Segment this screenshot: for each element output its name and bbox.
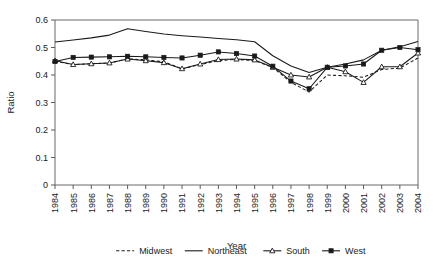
legend-swatch-marker [329, 249, 333, 253]
legend-label: West [345, 246, 366, 256]
y-axis-title: Ratio [5, 91, 16, 113]
legend-label: Northeast [208, 246, 248, 256]
legend-item-midwest[interactable]: Midwest [116, 246, 173, 256]
y-axis: 00.10.20.30.40.50.6 [35, 15, 55, 190]
data-point-marker [144, 55, 148, 59]
x-tick-label: 1989 [141, 193, 151, 213]
data-point-marker [253, 54, 257, 58]
chart-figure: 00.10.20.30.40.50.6198419851986198719881… [0, 0, 433, 264]
x-tick-label: 2001 [359, 193, 369, 213]
x-tick-label: 1998 [305, 193, 315, 213]
data-point-marker [89, 55, 93, 59]
data-point-marker [162, 55, 166, 59]
y-tick-label: 0.3 [35, 98, 48, 108]
x-tick-label: 1996 [268, 193, 278, 213]
x-tick-label: 1987 [105, 193, 115, 213]
data-point-marker [271, 64, 275, 68]
x-tick-label: 1990 [159, 193, 169, 213]
x-tick-label: 2003 [395, 193, 405, 213]
x-tick-label: 1988 [123, 193, 133, 213]
plot-frame [55, 20, 418, 185]
data-point-marker [325, 65, 329, 69]
x-tick-label: 1985 [69, 193, 79, 213]
data-point-marker [343, 64, 347, 68]
data-point-marker [289, 79, 293, 83]
x-tick-label: 1993 [214, 193, 224, 213]
data-point-marker [398, 45, 402, 49]
line-chart: 00.10.20.30.40.50.6198419851986198719881… [0, 0, 433, 264]
x-tick-label: 1984 [50, 193, 60, 213]
legend-item-northeast[interactable]: Northeast [185, 246, 248, 256]
y-tick-label: 0.2 [35, 125, 48, 135]
y-tick-label: 0.1 [35, 153, 48, 163]
legend-item-west[interactable]: West [322, 246, 366, 256]
legend-label: South [286, 246, 310, 256]
legend: MidwestNortheastSouthWest [116, 246, 366, 256]
data-point-marker [416, 48, 420, 52]
x-tick-label: 2002 [377, 193, 387, 213]
data-point-marker [107, 55, 111, 59]
legend-label: Midwest [139, 246, 173, 256]
x-tick-label: 1995 [250, 193, 260, 213]
y-tick-label: 0.4 [35, 70, 48, 80]
data-point-marker [198, 53, 202, 57]
legend-item-south[interactable]: South [263, 246, 310, 256]
data-point-marker [380, 48, 384, 52]
data-point-marker [307, 87, 311, 91]
data-point-marker [126, 54, 130, 58]
x-tick-label: 1992 [196, 193, 206, 213]
data-point-marker [180, 56, 184, 60]
x-tick-label: 2004 [413, 193, 423, 213]
y-tick-label: 0.6 [35, 15, 48, 25]
x-tick-label: 1997 [286, 193, 296, 213]
x-tick-label: 1994 [232, 193, 242, 213]
x-tick-label: 1986 [87, 193, 97, 213]
data-point-marker [71, 55, 75, 59]
x-axis: 1984198519861987198819891990199119921993… [50, 185, 423, 213]
y-tick-label: 0.5 [35, 43, 48, 53]
x-tick-label: 1999 [323, 193, 333, 213]
x-tick-label: 2000 [341, 193, 351, 213]
data-point-marker [234, 51, 238, 55]
data-point-marker [53, 59, 57, 63]
data-point-marker [361, 62, 365, 66]
y-tick-label: 0 [43, 180, 48, 190]
x-tick-label: 1991 [177, 193, 187, 213]
data-point-marker [216, 50, 220, 54]
